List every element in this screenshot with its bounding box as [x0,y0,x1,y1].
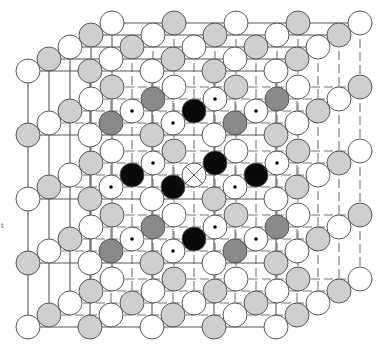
atom-white [140,59,164,83]
atom-light [306,227,330,251]
atom-white [79,87,103,111]
atom-light [100,203,124,227]
atom-light [327,151,351,175]
atom-dotted [120,99,144,123]
atom-white [16,315,40,339]
atom-dotted [244,99,268,123]
atom-white [37,239,61,263]
atom-light [202,187,226,211]
atom-light [79,279,103,303]
atom-white [140,315,164,339]
atom-light [327,23,351,47]
atom-light [58,227,82,251]
atom-white [99,303,123,327]
atom-white [58,291,82,315]
atom-black [182,227,206,251]
atom-white [141,279,165,303]
atom-dark [141,215,165,239]
atom-light [79,23,103,47]
atom-light [120,291,144,315]
atom-white [182,35,206,59]
atom-white [99,47,123,71]
atom-light [78,187,102,211]
atom-white [348,139,372,163]
atom-white [16,187,40,211]
atom-dotted [120,227,144,251]
atom-light [327,279,351,303]
atom-white [100,139,124,163]
atom-light [348,75,372,99]
atom-light [285,175,309,199]
atom-light [79,151,103,175]
atom-light [162,139,186,163]
atom-white [16,59,40,83]
atom-light [140,123,164,147]
atom-white [140,187,164,211]
atom-light [286,11,310,35]
atom-white [141,23,165,47]
atom-dotted [265,151,289,175]
atom-light [286,267,310,291]
atom-white [100,11,124,35]
atom-light [16,251,40,275]
atom-white [78,123,102,147]
atom-white [223,47,247,71]
atom-dark [223,111,247,135]
atom-white [58,35,82,59]
atom-white [162,75,186,99]
atom-white [348,267,372,291]
atom-white [286,203,310,227]
atom-light [162,267,186,291]
atom-dotted [99,175,123,199]
atom-light [224,203,248,227]
atom-white [224,11,248,35]
atom-white [265,23,289,47]
atom-black [203,151,227,175]
atom-light [58,99,82,123]
atom-white [223,303,247,327]
atom-light [100,75,124,99]
atom-light [285,47,309,71]
atom-white [264,315,288,339]
side-label: t [1,220,4,230]
atom-light [286,139,310,163]
atom-light [203,279,227,303]
atom-white [79,215,103,239]
lattice-diagram [0,0,386,349]
atom-light [306,99,330,123]
atom-light [161,47,185,71]
atom-white [265,279,289,303]
atom-dotted [141,151,165,175]
atom-light [37,47,61,71]
atom-white [348,11,372,35]
atom-light [37,303,61,327]
atom-light [16,123,40,147]
atom-light [140,251,164,275]
atom-white [78,251,102,275]
atom-light [203,23,227,47]
atom-black [120,163,144,187]
atom-dark [141,87,165,111]
atom-dotted [161,239,185,263]
atom-dark [223,239,247,263]
atom-white [100,267,124,291]
atom-white [264,187,288,211]
atom-light [162,11,186,35]
atom-light [202,315,226,339]
atom-white [202,123,226,147]
atom-white [182,291,206,315]
atom-light [348,203,372,227]
atom-white [202,251,226,275]
atom-dark [99,111,123,135]
atom-black [182,99,206,123]
atom-black [161,175,185,199]
atom-light [202,59,226,83]
atom-dotted [244,227,268,251]
atom-white [327,87,351,111]
atom-white [224,267,248,291]
atom-light [78,315,102,339]
atom-light [244,35,268,59]
atom-white [58,163,82,187]
atom-light [120,35,144,59]
atom-white [286,75,310,99]
